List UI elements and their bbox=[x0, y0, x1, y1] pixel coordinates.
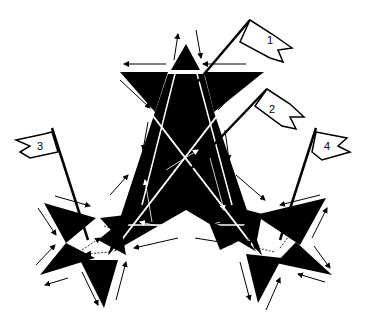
flag-label-1: 1 bbox=[267, 34, 273, 46]
flag-label-2: 2 bbox=[269, 103, 275, 115]
flag-label-3: 3 bbox=[37, 140, 43, 152]
flag-label-4: 4 bbox=[324, 140, 330, 152]
left-star bbox=[40, 203, 134, 308]
flag-banner-4 bbox=[312, 132, 350, 160]
star-flag-diagram: 1 2 3 4 bbox=[0, 0, 366, 325]
central-star bbox=[108, 44, 264, 255]
flag-banner-2 bbox=[255, 89, 304, 129]
